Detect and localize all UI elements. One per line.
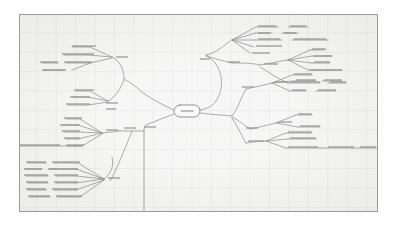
left-middle-stem — [144, 125, 146, 131]
leaf-fan-right-lower-c — [266, 133, 377, 148]
left-lower-stem — [104, 157, 113, 179]
leaf-fan-left-upper-a — [42, 47, 112, 70]
right-upper-grandchild-stem-2 — [260, 67, 288, 83]
right-lower-stem-a — [232, 89, 246, 116]
leaf-fan-left-upper-b — [68, 91, 108, 105]
diagram-canvas[interactable] — [19, 14, 378, 212]
leaf-fan-left-middle — [20, 119, 120, 146]
root-to-right-upper — [200, 55, 221, 110]
root-to-left-upper — [124, 79, 174, 110]
screenshot-root: Mind map diagram — [0, 0, 397, 229]
left-upper-stem-b — [108, 80, 124, 101]
root-node — [174, 105, 200, 117]
root-to-left-middle — [146, 114, 174, 125]
right-upper-child-stem — [232, 63, 260, 65]
right-lower-a-child — [246, 83, 272, 89]
leaf-fan-right-lower-b — [276, 115, 320, 127]
right-upper-stem — [206, 41, 230, 55]
left-upper-stem-a — [112, 57, 124, 79]
root-to-right-lower — [200, 113, 232, 116]
mind-map-svg — [20, 15, 377, 211]
mind-map[interactable] — [20, 15, 377, 211]
leaf-fan-left-lower — [26, 157, 113, 197]
left-middle-down-stem — [110, 131, 132, 181]
leaf-fan-right-upper-b — [288, 50, 342, 70]
right-lower-stem-c — [232, 118, 246, 143]
